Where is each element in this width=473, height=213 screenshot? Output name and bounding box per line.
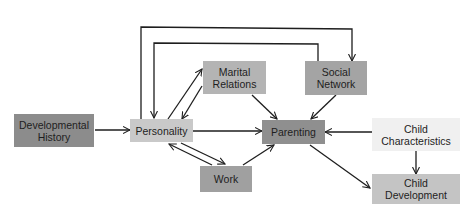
node-child-characteristics: Child Characteristics [372, 118, 460, 151]
node-label: Developmental History [19, 119, 89, 143]
node-label: Parenting [271, 126, 316, 138]
edge-social-to-parenting [311, 95, 336, 119]
node-social-network: Social Network [305, 61, 367, 95]
node-marital-relations: Marital Relations [203, 61, 266, 94]
node-child-development: Child Development [372, 174, 460, 204]
node-work: Work [200, 166, 252, 192]
edge-marital-to-personality [182, 86, 202, 119]
edge-parenting-to-childdev [310, 145, 370, 188]
node-developmental-history: Developmental History [14, 114, 94, 147]
node-personality: Personality [130, 119, 193, 142]
node-label: Work [214, 173, 238, 185]
parenting-determinants-diagram: Developmental History Personality Marita… [0, 0, 473, 213]
node-label: Marital Relations [213, 66, 257, 90]
node-label: Social Network [317, 66, 356, 90]
node-label: Child Characteristics [381, 123, 450, 147]
edge-work-to-parenting [243, 145, 274, 165]
node-label: Child Development [385, 177, 447, 201]
edge-marital-to-parenting [252, 95, 277, 119]
node-parenting: Parenting [262, 120, 325, 144]
node-label: Personality [136, 125, 188, 137]
